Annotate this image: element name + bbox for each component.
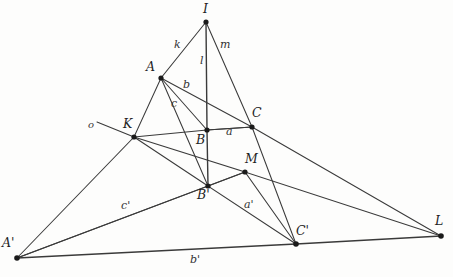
- edge-Aprime-Bprime-Cprime: [17, 186, 296, 258]
- vertex-I[interactable]: [203, 19, 208, 24]
- segment-label-m: m: [220, 39, 230, 50]
- point-label-M: M: [245, 153, 258, 166]
- edge-I-B-Bprime: [206, 22, 208, 186]
- point-label-A: A: [146, 61, 155, 74]
- vertex-C[interactable]: [249, 124, 254, 129]
- point-label-B: B: [196, 134, 205, 147]
- segment-label-b: b: [183, 79, 190, 90]
- vertex-Cprime[interactable]: [293, 241, 299, 247]
- vertex-Aprime[interactable]: [14, 255, 20, 261]
- edge-Bprime-M: [208, 172, 245, 186]
- segment-label-o: o: [88, 120, 94, 130]
- vertex-A[interactable]: [158, 75, 163, 80]
- segment-label-a: a: [226, 126, 233, 137]
- edge-Aprime-M-L: [17, 172, 441, 258]
- point-label-C-prime: C': [296, 225, 309, 238]
- point-label-L: L: [435, 215, 443, 228]
- vertex-K[interactable]: [131, 134, 136, 139]
- point-label-I: I: [203, 3, 208, 16]
- segment-label-a-prime: a': [244, 199, 254, 210]
- segment-label-k: k: [174, 39, 181, 50]
- vertex-B[interactable]: [204, 127, 209, 132]
- geometry-figure: I A K B C M B' A' C' L k l m b c a o c' …: [0, 0, 453, 277]
- segment-label-l: l: [200, 55, 204, 66]
- segment-label-b-prime: b': [190, 254, 200, 265]
- segment-label-c-prime: c': [121, 200, 130, 211]
- point-label-A-prime: A': [2, 237, 14, 250]
- vertex-L[interactable]: [438, 233, 444, 239]
- edge-group: [17, 22, 441, 258]
- point-label-C: C: [252, 107, 262, 120]
- edge-A-C-L: [161, 78, 441, 236]
- vertex-group: [14, 19, 444, 260]
- vertex-M[interactable]: [242, 169, 247, 174]
- point-label-K: K: [123, 118, 132, 131]
- segment-label-c: c: [171, 98, 177, 109]
- point-label-B-prime: B': [197, 189, 210, 202]
- edge-Aprime-Cprime-L: [17, 236, 441, 258]
- edge-K-B-C: [134, 127, 252, 137]
